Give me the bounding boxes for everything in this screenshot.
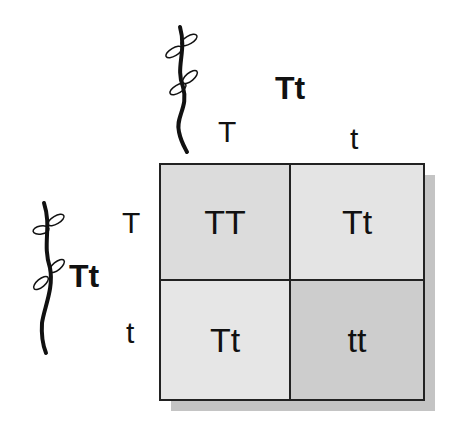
top-allele-2: t [350,122,358,156]
left-plant-icon [30,198,70,358]
cell-Tt-bottom-left: Tt [161,281,291,399]
left-parent-genotype: Tt [69,258,99,295]
top-allele-1: T [218,115,236,149]
left-allele-2: t [126,316,134,350]
top-parent-genotype: Tt [275,70,305,107]
left-allele-1: T [122,206,140,240]
top-plant-icon [165,22,205,157]
cell-tt: tt [291,281,423,399]
cell-Tt-top-right: Tt [291,165,423,281]
cell-TT: TT [161,165,291,281]
punnett-square: TT Tt Tt tt [159,163,425,401]
